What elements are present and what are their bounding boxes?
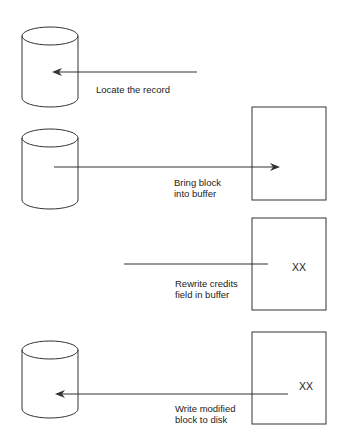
step-locate-record: Locate the record	[22, 27, 197, 107]
step-write-block: XX Write modified block to disk	[22, 332, 326, 425]
buffer-value: XX	[299, 380, 313, 392]
disk-cylinder-icon	[22, 129, 78, 209]
step-label: Bring block into buffer	[174, 177, 224, 199]
step-label: Rewrite credits field in buffer	[175, 278, 240, 300]
buffer-value: XX	[292, 261, 306, 273]
buffer-rectangle	[252, 107, 326, 200]
step-rewrite-field: XX Rewrite credits field in buffer	[124, 218, 326, 310]
step-label: Locate the record	[96, 84, 170, 95]
buffer-rectangle	[252, 332, 326, 424]
disk-cylinder-icon	[22, 27, 78, 107]
step-label: Write modified block to disk	[175, 403, 238, 425]
disk-cylinder-icon	[22, 341, 78, 418]
step-bring-block: Bring block into buffer	[22, 107, 326, 209]
disk-buffer-diagram: Locate the record Bring block into buffe…	[0, 0, 342, 446]
